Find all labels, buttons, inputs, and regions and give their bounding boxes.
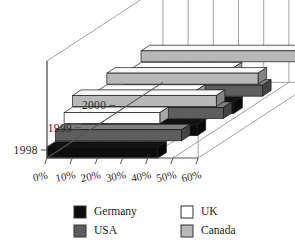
bar-canada-1999 — [107, 73, 258, 84]
legend-item-germany[interactable]: Germany — [74, 205, 137, 218]
x-tick-label-0: 0% — [32, 169, 49, 184]
x-tick — [120, 158, 122, 164]
x-tick-label-20: 20% — [80, 168, 102, 184]
value-axis-labels: 0%10%20%30%40%50%60% — [32, 158, 203, 184]
bar-top-usa — [56, 124, 191, 130]
x-tick — [196, 158, 198, 164]
legend-label-uk: UK — [201, 205, 218, 217]
bar-top-canada — [107, 68, 267, 74]
bar-germany-1998 — [47, 147, 158, 158]
bar-top-canada — [73, 90, 225, 96]
legend-item-uk[interactable]: UK — [181, 205, 218, 218]
bar-chart: 200019991998 0%10%20%30%40%50%60% German… — [0, 0, 295, 251]
bar-top-canada — [141, 45, 295, 51]
legend-item-usa[interactable]: USA — [74, 224, 118, 237]
chart-canvas: 200019991998 0%10%20%30%40%50%60% German… — [0, 0, 295, 251]
chart-legend: GermanyUKUSACanada — [74, 205, 235, 237]
legend-swatch-uk — [181, 206, 193, 218]
x-tick — [95, 158, 97, 164]
bar-canada-2000 — [141, 51, 295, 62]
legend-swatch-canada — [181, 225, 193, 237]
legend-swatch-germany — [74, 206, 86, 218]
legend-swatch-usa — [74, 225, 86, 237]
category-label-2000: 2000 — [82, 99, 106, 111]
legend-label-canada: Canada — [201, 224, 235, 236]
category-label-1998: 1998 — [14, 144, 38, 156]
x-tick — [70, 158, 72, 164]
x-tick — [146, 158, 148, 164]
x-tick-label-10: 10% — [54, 168, 76, 184]
bar-uk-1998 — [64, 113, 160, 124]
bar-top-uk — [133, 62, 242, 68]
x-tick-label-30: 30% — [105, 168, 127, 184]
x-tick-label-40: 40% — [130, 168, 152, 184]
legend-item-canada[interactable]: Canada — [181, 224, 235, 237]
bar-usa-1998 — [56, 130, 182, 141]
x-tick-label-50: 50% — [155, 168, 177, 184]
x-tick-label-60: 60% — [180, 168, 202, 184]
legend-label-usa: USA — [94, 224, 118, 236]
x-tick — [45, 158, 47, 164]
legend-label-germany: Germany — [94, 205, 137, 218]
bar-top-uk — [64, 107, 168, 113]
x-tick — [171, 158, 173, 164]
category-label-1999: 1999 — [48, 122, 72, 134]
plot-area: 200019991998 0%10%20%30%40%50%60% — [14, 0, 295, 184]
